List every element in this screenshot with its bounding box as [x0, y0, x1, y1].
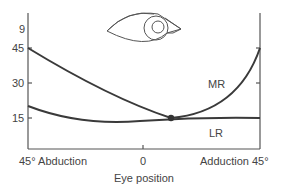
intersection-point — [168, 115, 174, 121]
y-unit-label: 9 — [19, 24, 25, 35]
series-mr-label: MR — [208, 79, 225, 90]
y-tick-15: 15 — [12, 113, 24, 124]
axes — [28, 13, 260, 149]
x-tick-left: 45° Abduction — [19, 156, 87, 167]
series-lr-label: LR — [209, 128, 223, 139]
x-tick-right: Adduction 45° — [200, 156, 269, 167]
x-axis-title: Eye position — [114, 173, 174, 184]
y-tick-45: 45 — [12, 43, 24, 54]
y-tick-30: 30 — [12, 78, 24, 89]
series-mr-line — [28, 48, 260, 118]
x-tick-center: 0 — [140, 156, 146, 167]
eye-icon — [107, 13, 181, 41]
